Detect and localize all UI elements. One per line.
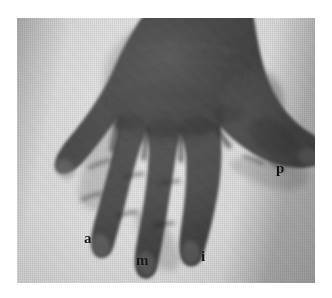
digit-label-a: a	[84, 231, 92, 246]
hand-photograph: a m i p	[17, 18, 315, 283]
digit-label-p: p	[276, 161, 284, 176]
digit-label-m: m	[136, 253, 149, 268]
figure-container: a m i p	[0, 0, 332, 298]
digit-label-i: i	[201, 249, 205, 264]
hand-image	[17, 18, 315, 283]
